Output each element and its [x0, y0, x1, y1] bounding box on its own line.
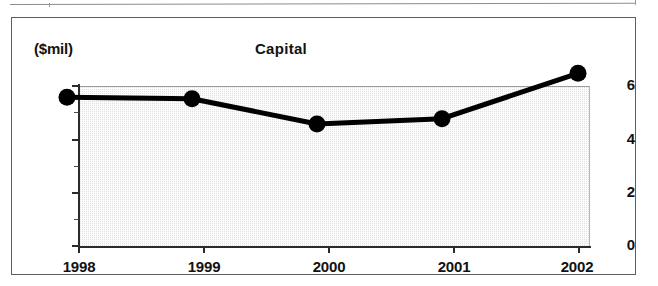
artifact-right-endcap [635, 0, 636, 5]
x-tick-1998 [78, 247, 80, 253]
plot-area [79, 86, 590, 247]
x-axis-line [78, 246, 591, 248]
y-tick-label-4: 4 [583, 130, 635, 147]
y-tick-minor-3 [74, 166, 79, 167]
y-tick-major-6 [72, 85, 79, 87]
x-tick-2000 [328, 247, 330, 253]
y-tick-minor-5 [74, 112, 79, 113]
x-tick-label-1999: 1999 [169, 258, 239, 275]
y-tick-label-2: 2 [583, 183, 635, 200]
x-tick-1999 [203, 247, 205, 253]
y-tick-label-0: 0 [583, 236, 635, 253]
chart-figure-frame: ($mil) Capital 0 2 4 6 1998 1999 2000 20… [11, 17, 636, 275]
artifact-tick-mark [49, 3, 50, 7]
y-tick-major-4 [72, 139, 79, 141]
x-tick-2001 [453, 247, 455, 253]
x-tick-label-2000: 2000 [294, 258, 364, 275]
y-tick-major-2 [72, 192, 79, 194]
y-tick-minor-1 [74, 219, 79, 220]
scan-artifact-top-rule [10, 3, 636, 6]
artifact-horizontal-rule [10, 3, 636, 5]
x-tick-2002 [578, 247, 580, 253]
chart-title: Capital [12, 40, 635, 57]
x-tick-label-1998: 1998 [44, 258, 114, 275]
plot-background-fill [79, 86, 590, 247]
y-tick-label-6: 6 [583, 76, 635, 93]
x-tick-label-2001: 2001 [419, 258, 489, 275]
x-tick-label-2002: 2002 [542, 258, 612, 275]
